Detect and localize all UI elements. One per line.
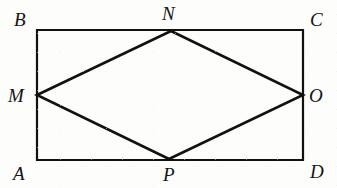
vertex-label-d: D	[310, 162, 324, 181]
diagram-canvas	[0, 0, 337, 188]
vertex-label-p: P	[163, 165, 175, 184]
vertex-label-n: N	[162, 4, 175, 23]
geometry-figure: B N C M O A P D	[0, 0, 337, 188]
rhombus-mnop	[37, 31, 303, 159]
vertex-label-o: O	[309, 86, 323, 105]
vertex-label-b: B	[14, 10, 26, 29]
vertex-label-m: M	[8, 86, 24, 105]
vertex-label-c: C	[310, 10, 323, 29]
vertex-label-a: A	[13, 164, 25, 183]
rectangle-abcd	[37, 30, 303, 160]
